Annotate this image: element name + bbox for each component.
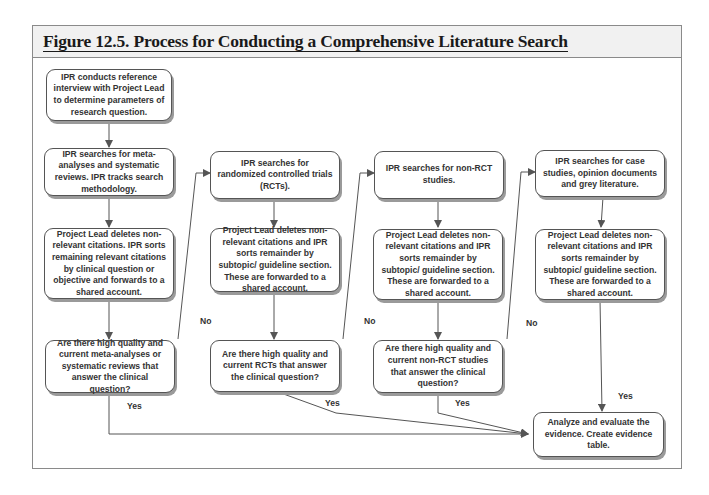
label-yes-1: Yes	[127, 401, 142, 411]
label-yes-2: Yes	[325, 398, 340, 408]
node-decision-non-rct: Are there high quality and current non-R…	[373, 340, 503, 393]
label-no-2: No	[364, 316, 375, 326]
node-sort-citations-3: Project Lead deletes non-relevant citati…	[373, 229, 503, 300]
label-yes-3: Yes	[455, 398, 470, 408]
node-sort-citations-1: Project Lead deletes non-relevant citati…	[44, 228, 174, 299]
node-search-grey-literature: IPR searches for case studies, opinion d…	[535, 150, 665, 197]
node-decision-rcts: Are there high quality and current RCTs …	[210, 340, 340, 392]
node-sort-citations-4: Project Lead deletes non-relevant citati…	[535, 229, 665, 300]
node-analyze-evidence: Analyze and evaluate the evidence. Creat…	[533, 412, 664, 457]
node-reference-interview: IPR conducts reference interview with Pr…	[46, 69, 172, 121]
node-search-meta-analyses: IPR searches for meta-analyses and syste…	[44, 148, 174, 196]
node-decision-meta-analyses: Are there high quality and current meta-…	[45, 340, 175, 393]
node-search-non-rct: IPR searches for non-RCT studies.	[374, 151, 504, 199]
node-sort-citations-2: Project Lead deletes non-relevant citati…	[210, 228, 340, 292]
node-search-rcts: IPR searches for randomized controlled t…	[210, 151, 340, 199]
label-yes-4: Yes	[618, 391, 633, 401]
label-no-1: No	[200, 316, 211, 326]
label-no-3: No	[526, 318, 537, 328]
